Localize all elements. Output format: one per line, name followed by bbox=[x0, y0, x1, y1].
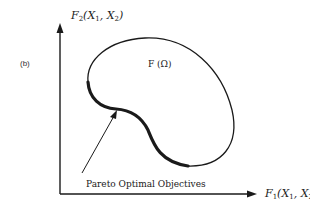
y-axis-arrow-icon bbox=[57, 23, 64, 33]
pareto-annotation: Pareto Optimal Objectives bbox=[86, 179, 206, 189]
annotation-arrow-line bbox=[82, 116, 114, 173]
y-axis-label: F2(X1, X2) bbox=[70, 9, 123, 23]
y-axis: F2(X1, X2) bbox=[57, 9, 124, 194]
feasible-region-boundary bbox=[88, 38, 234, 166]
x-axis: F1(X1, X2) bbox=[60, 187, 310, 201]
region-label: F (Ω) bbox=[148, 59, 172, 69]
x-axis-arrow-icon bbox=[247, 191, 257, 198]
annotation-arrowhead-icon bbox=[110, 110, 117, 119]
pareto-front-curve bbox=[88, 82, 188, 166]
annotation-arrow bbox=[82, 110, 117, 173]
x-axis-label: F1(X1, X2) bbox=[264, 187, 310, 201]
panel-label: (b) bbox=[20, 59, 30, 68]
pareto-front-diagram: (b) F2(X1, X2) F1(X1, X2) F (Ω) Pareto O… bbox=[0, 0, 310, 207]
